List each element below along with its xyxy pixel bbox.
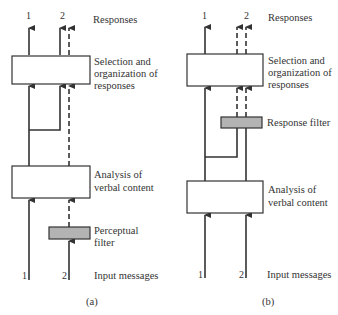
- input-messages-label-b: Input messages: [267, 269, 331, 281]
- responses-label-a: Responses: [93, 14, 137, 26]
- analysis-label-a-1: Analysis of: [94, 169, 142, 181]
- selection-label-a-1: Selection and: [94, 56, 151, 68]
- selection-label-b-2: organization of: [268, 67, 332, 79]
- caption-b: (b): [262, 296, 274, 307]
- output-number-1-b: 1: [202, 10, 207, 21]
- response-filter-box-b: [221, 117, 262, 128]
- analysis-label-b-1: Analysis of: [268, 184, 316, 196]
- caption-a: (a): [86, 296, 98, 307]
- input-number-1-a: 1: [22, 270, 27, 281]
- analysis-label-b-2: verbal content: [268, 197, 328, 209]
- output-number-1-a: 1: [26, 10, 31, 21]
- analysis-box-a: [12, 166, 90, 198]
- selection-label-a-2: organization of: [94, 68, 158, 80]
- input-number-2-b: 2: [239, 269, 244, 280]
- selection-label-b-1: Selection and: [268, 55, 325, 67]
- responses-label-b: Responses: [268, 12, 312, 24]
- input-number-2-a: 2: [62, 270, 67, 281]
- analysis-box-b: [187, 181, 263, 213]
- filter-label-a-1: Perceptual: [94, 225, 138, 237]
- filter-label-b: Response filter: [267, 117, 330, 129]
- input-number-1-b: 1: [198, 269, 203, 280]
- selection-box-b: [187, 54, 263, 86]
- selection-box-a: [12, 56, 90, 84]
- selection-label-b-3: responses: [268, 79, 309, 91]
- diagram-canvas: [0, 0, 338, 315]
- filter-label-a-2: filter: [94, 237, 114, 249]
- selection-label-a-3: responses: [94, 80, 135, 92]
- input-messages-label-a: Input messages: [94, 270, 158, 282]
- output-number-2-b: 2: [244, 10, 249, 21]
- analysis-label-a-2: verbal content: [94, 182, 154, 194]
- perceptual-filter-box-a: [49, 227, 90, 239]
- output-number-2-a: 2: [60, 10, 65, 21]
